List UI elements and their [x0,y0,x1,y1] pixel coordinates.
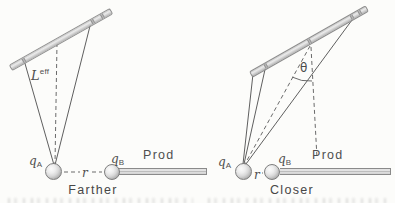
left-separation-label: r [80,163,90,181]
left-charge-qa-ball [45,163,62,180]
right-bar-string-band-3 [350,14,355,20]
right-bar-string-band-1 [263,63,268,69]
left-bar-string-band-1 [21,57,26,63]
right-prod-label: Prod [312,148,344,162]
cropped-text-remnant-right [208,198,388,203]
right-charge-qa-ball [235,163,252,180]
right-qb-label: qB [278,149,291,167]
theta-label: θ [300,61,307,75]
right-separation-label: r [252,165,262,183]
left-qa-label: qA [29,151,42,169]
left-effective-length-dashed-line [55,43,57,164]
right-vertical-dashed-line [311,47,317,158]
right-string-far-left [243,74,253,164]
right-bar-end-cap [357,10,362,16]
right-qa-label: qA [218,152,231,170]
left-qb-label: qB [111,149,124,167]
left-prod-label: Prod [143,148,175,162]
right-prod-rod [280,168,391,175]
physics-figure: Leff qA r qB Prod Farther θ qA r qB Prod… [0,0,395,203]
cropped-text-remnant-left [8,198,193,203]
left-bar-string-band-2 [90,19,95,25]
right-bar-string-band-2 [307,38,312,44]
left-prod-rod [118,168,207,175]
left-bar-end-cap [100,13,105,19]
left-caption-farther: Farther [57,183,129,197]
right-string-left [244,65,266,164]
right-caption-closer: Closer [256,183,328,197]
left-effective-length-label: Leff [31,66,49,84]
